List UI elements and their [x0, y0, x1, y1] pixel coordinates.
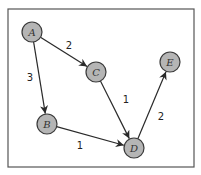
edge-weight-a-b: 3 [27, 72, 33, 83]
edge-weight-b-d: 1 [77, 140, 83, 151]
edge-weight-d-e: 2 [158, 111, 164, 122]
edge-weight-a-c: 2 [66, 40, 72, 51]
edge-weight-c-d: 1 [123, 94, 129, 105]
node-a: A [22, 22, 42, 42]
node-d: D [124, 138, 144, 158]
node-b: B [37, 114, 57, 134]
node-label: C [92, 67, 100, 78]
node-c: C [86, 62, 106, 82]
node-label: E [165, 57, 174, 68]
node-e: E [160, 52, 180, 72]
node-label: B [42, 119, 50, 130]
graph-diagram: 23112 ACEBD [0, 0, 201, 175]
node-label: D [129, 143, 138, 154]
node-label: A [27, 27, 35, 38]
